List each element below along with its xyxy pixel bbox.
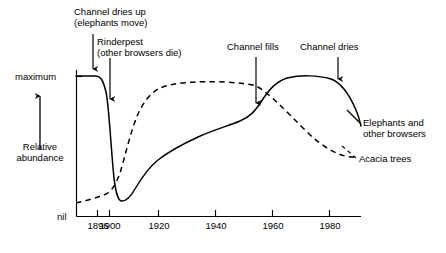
chart-axes xyxy=(77,70,362,217)
annotation-channel-fills: Channel fills xyxy=(227,41,279,52)
series-line-acacia xyxy=(76,82,356,203)
x-tick-label-1940: 1940 xyxy=(198,220,234,231)
x-tick-label-1920: 1920 xyxy=(141,220,177,231)
series-label-elephants: Elephants and other browsers xyxy=(363,117,426,139)
y-axis-nil-label: nil xyxy=(57,211,67,222)
series-leader-lines xyxy=(342,110,360,158)
series-line-elephants xyxy=(76,76,361,201)
x-tick-label-1980: 1980 xyxy=(312,220,348,231)
y-axis-title: Relative abundance xyxy=(5,141,75,163)
annotation-channel-dries: Channel dries xyxy=(300,41,359,52)
x-tick-label-1900: 1900 xyxy=(92,220,128,231)
x-axis-ticks xyxy=(98,210,330,217)
chart-figure: maximum nil Relative abundance 1896 1900… xyxy=(0,0,446,253)
annotation-rinderpest: Rinderpest (other browsers die) xyxy=(97,36,181,58)
x-tick-label-1960: 1960 xyxy=(255,220,291,231)
annotation-channel-dries-up: Channel dries up (elephants move) xyxy=(74,6,147,28)
y-axis-maximum-label: maximum xyxy=(15,71,56,82)
series-label-acacia: Acacia trees xyxy=(359,153,411,164)
